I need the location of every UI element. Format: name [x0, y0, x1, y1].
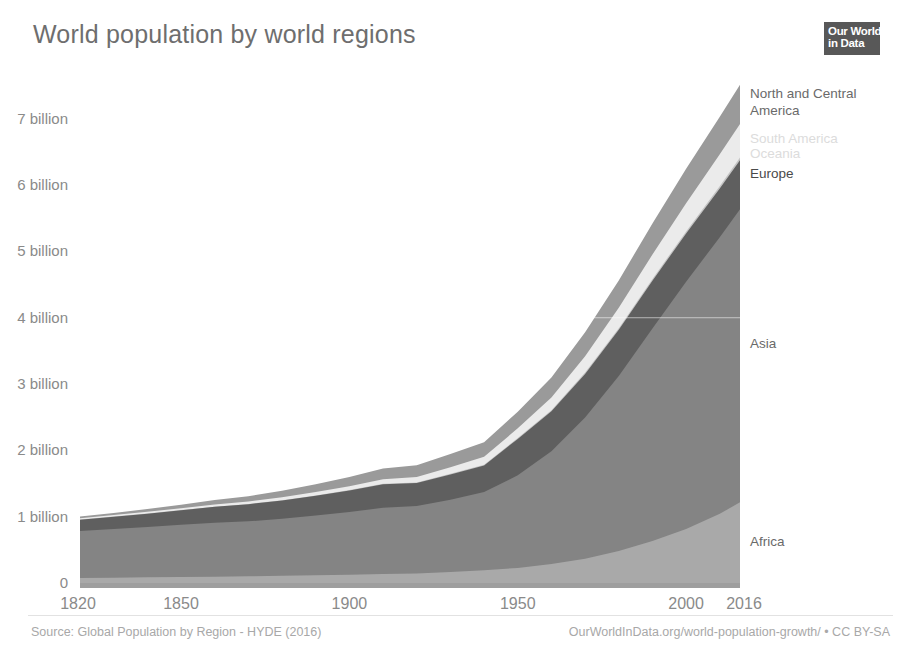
x-axis: 182018501900195020002016: [60, 595, 762, 612]
y-tick-label-3: 3 billion: [17, 375, 68, 392]
x-axis-baseline: [80, 583, 740, 588]
our-world-in-data-logo[interactable]: Our World in Data: [824, 22, 880, 55]
series-label-africa: Africa: [750, 534, 785, 549]
series-label-south-america: South America: [750, 131, 838, 146]
series-label-europe: Europe: [750, 166, 794, 181]
series-label-asia: Asia: [750, 336, 777, 351]
page-title: World population by world regions: [33, 20, 416, 49]
x-tick-label-2000: 2000: [668, 595, 704, 612]
footer-divider: [28, 615, 893, 616]
chart-plot-area: 01 billion2 billion3 billion4 billion5 b…: [0, 70, 921, 615]
logo-line-2: in Data: [828, 37, 880, 49]
y-tick-label-2: 2 billion: [17, 441, 68, 458]
y-tick-label-6: 6 billion: [17, 176, 68, 193]
y-tick-label-7: 7 billion: [17, 110, 68, 127]
x-tick-label-1850: 1850: [163, 595, 199, 612]
chart-card: World population by world regions Our Wo…: [0, 0, 921, 668]
x-tick-label-1950: 1950: [500, 595, 536, 612]
chart-footer: Source: Global Population by Region - HY…: [0, 615, 921, 668]
series-labels: North and CentralAmericaSouth AmericaOce…: [750, 86, 857, 549]
x-tick-label-1900: 1900: [332, 595, 368, 612]
chart-header: World population by world regions Our Wo…: [0, 0, 921, 70]
series-label-north-and-central-america: America: [750, 103, 800, 118]
series-label-oceania: Oceania: [750, 146, 801, 161]
y-tick-label-4: 4 billion: [17, 309, 68, 326]
area-series-group: [80, 85, 740, 583]
series-label-north-and-central-america: North and Central: [750, 86, 857, 101]
x-tick-label-1820: 1820: [60, 595, 96, 612]
logo-line-1: Our World: [828, 25, 880, 37]
y-tick-label-0: 0: [60, 574, 68, 591]
stacked-area-chart: 01 billion2 billion3 billion4 billion5 b…: [0, 70, 921, 615]
y-tick-label-1: 1 billion: [17, 508, 68, 525]
y-tick-label-5: 5 billion: [17, 242, 68, 259]
attribution-link[interactable]: OurWorldInData.org/world-population-grow…: [569, 625, 890, 639]
y-axis: 01 billion2 billion3 billion4 billion5 b…: [17, 110, 68, 591]
source-note: Source: Global Population by Region - HY…: [31, 625, 321, 639]
x-tick-label-2016: 2016: [726, 595, 762, 612]
axis-baseline: [80, 583, 740, 588]
